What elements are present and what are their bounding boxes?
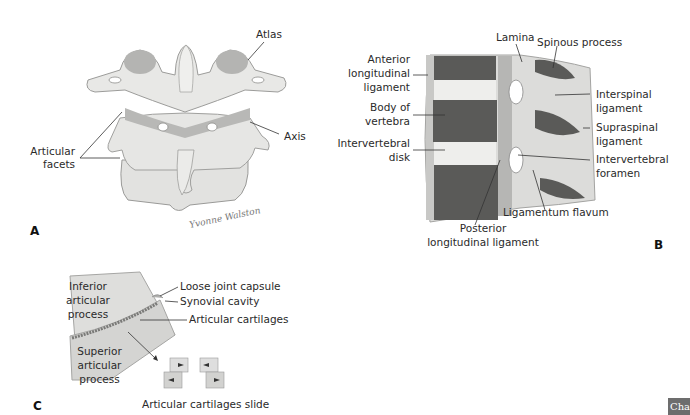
label-articular-cartilages-slide: Articular cartilages slide — [142, 398, 269, 411]
svg-text:Yvonne Walston: Yvonne Walston — [188, 205, 261, 230]
label-lamina: Lamina — [496, 31, 535, 44]
label-inferior-articular-process-1: Inferior — [62, 280, 114, 293]
label-superior-articular-process-3: process — [72, 373, 127, 386]
label-articular-facets-2: facets — [30, 158, 75, 171]
label-intervertebral-disk-1: Intervertebral — [330, 137, 410, 150]
label-intervertebral-foramen-1: Intervertebral — [596, 153, 669, 166]
atlas-axis-illustration: Yvonne Walston — [87, 45, 286, 230]
panel-letter-b: B — [654, 238, 663, 252]
corner-tab[interactable]: Cha — [668, 398, 690, 415]
label-articular-cartilages: Articular cartilages — [189, 313, 288, 326]
spine-sagittal-illustration — [425, 55, 595, 222]
label-anterior-longitudinal-ligament-1: Anterior — [340, 53, 410, 66]
label-interspinal-ligament-2: ligament — [596, 102, 642, 115]
label-anterior-longitudinal-ligament-2: longitudinal — [340, 67, 410, 80]
label-body-of-vertebra-1: Body of — [340, 101, 410, 114]
label-anterior-longitudinal-ligament-3: ligament — [340, 81, 410, 94]
label-atlas: Atlas — [256, 28, 282, 41]
label-posterior-longitudinal-ligament-1: Posterior — [418, 222, 548, 235]
label-supraspinal-ligament-1: Supraspinal — [596, 121, 658, 134]
label-axis: Axis — [284, 130, 306, 143]
label-synovial-cavity: Synovial cavity — [180, 295, 259, 308]
label-inferior-articular-process-2: articular — [62, 294, 114, 307]
label-intervertebral-foramen-2: foramen — [596, 167, 640, 180]
label-interspinal-ligament-1: Interspinal — [596, 88, 652, 101]
label-articular-facets-1: Articular — [30, 145, 75, 158]
panel-letter-a: A — [30, 224, 39, 238]
panel-letter-c: C — [33, 399, 42, 413]
label-spinous-process: Spinous process — [537, 36, 622, 49]
label-ligamentum-flavum: Ligamentum flavum — [503, 206, 609, 219]
label-body-of-vertebra-2: vertebra — [340, 115, 410, 128]
label-posterior-longitudinal-ligament-2: longitudinal ligament — [418, 236, 548, 249]
label-supraspinal-ligament-2: ligament — [596, 135, 642, 148]
label-intervertebral-disk-2: disk — [330, 151, 410, 164]
label-superior-articular-process-2: articular — [72, 359, 127, 372]
label-inferior-articular-process-3: process — [62, 308, 114, 321]
label-superior-articular-process-1: Superior — [72, 345, 127, 358]
label-loose-joint-capsule: Loose joint capsule — [180, 280, 281, 293]
